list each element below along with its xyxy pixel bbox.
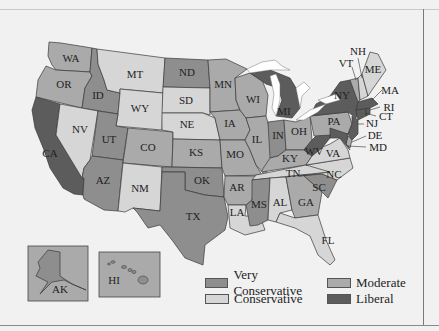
label-CA: CA [42,147,57,159]
label-OR: OR [56,78,72,90]
label-AZ: AZ [96,174,111,186]
label-SD: SD [179,94,193,106]
label-WI: WI [246,93,260,105]
label-KY: KY [282,152,298,164]
label-MD: MD [369,141,387,153]
label-WY: WY [131,102,149,114]
legend-swatch-moderate [327,278,351,288]
label-MN: MN [214,78,232,90]
label-NM: NM [131,182,149,194]
label-KS: KS [189,146,203,158]
label-FL: FL [322,234,335,246]
label-MT: MT [127,68,144,80]
label-DE: DE [368,129,383,141]
legend-label-conservative: Conservative [234,291,303,307]
label-MA: MA [381,84,399,96]
label-MS: MS [251,198,267,210]
label-NV: NV [72,123,88,135]
label-NE: NE [180,118,195,130]
label-NC: NC [326,168,341,180]
legend-swatch-conservative [205,294,229,304]
legend-swatch-liberal [327,294,351,304]
label-ME: ME [365,63,382,75]
legend-item-liberal: Liberal [327,291,394,307]
legend-row-2: Conservative Liberal [205,291,406,307]
label-OK: OK [194,174,210,186]
label-ND: ND [179,66,195,78]
label-MO: MO [226,148,244,160]
label-MI: MI [277,105,291,117]
label-OH: OH [291,125,307,137]
label-AL: AL [273,196,288,208]
state-RI[interactable] [366,108,370,116]
label-UT: UT [102,133,117,145]
label-SC: SC [312,181,325,193]
label-VT: VT [339,57,354,69]
legend-item-conservative: Conservative [205,291,327,307]
label-CO: CO [140,141,155,153]
label-VA: VA [326,147,341,159]
legend-swatch-very-conservative [205,278,228,288]
hawaii-inset: HI [99,252,160,297]
legend-item-moderate: Moderate [327,275,406,291]
legend-label-liberal: Liberal [356,291,394,307]
label-LA: LA [230,206,245,218]
label-WV: WV [305,145,323,157]
label-RI: RI [384,101,395,113]
label-ID: ID [92,89,104,101]
label-NH: NH [350,45,366,57]
label-IL: IL [252,133,263,145]
label-AR: AR [229,181,245,193]
legend-label-moderate: Moderate [356,275,406,291]
label-AK: AK [52,283,68,295]
label-TN: TN [286,167,301,179]
label-HI: HI [108,274,120,286]
legend-row-1: Very Conservative Moderate [205,275,406,291]
label-PA: PA [327,115,340,127]
label-IA: IA [224,117,236,129]
alaska-inset: AK [28,246,88,301]
label-WA: WA [62,52,79,64]
label-NY: NY [334,89,350,101]
label-IN: IN [272,129,284,141]
label-TX: TX [186,210,201,222]
legend: Very Conservative Moderate Conservative … [205,275,406,307]
label-GA: GA [298,196,314,208]
label-NJ: NJ [366,117,379,129]
